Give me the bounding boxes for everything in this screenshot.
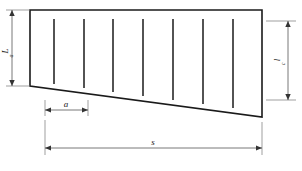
right-height-label-subscript: c xyxy=(280,62,286,65)
right-height-label: l xyxy=(272,58,282,61)
spacing-dimension: a xyxy=(45,99,88,116)
diagram-canvas: L a l c a s xyxy=(0,0,302,171)
right-height-dimension: l c xyxy=(266,21,296,100)
spacing-label: a xyxy=(64,99,69,109)
right-dim-arrow-down xyxy=(285,94,290,100)
technical-diagram-figure: L a l c a s xyxy=(0,0,302,171)
span-arrow-left xyxy=(45,146,51,151)
span-dimension: s xyxy=(45,120,262,155)
left-dim-arrow-down xyxy=(9,80,14,86)
left-height-label: L xyxy=(0,48,10,54)
left-height-label-subscript: a xyxy=(8,55,14,58)
internal-tick-lines xyxy=(54,19,233,108)
left-height-dimension: L a xyxy=(0,10,30,86)
spacing-arrow-right xyxy=(82,108,88,113)
span-label: s xyxy=(151,137,155,147)
spacing-arrow-left xyxy=(45,108,51,113)
span-arrow-right xyxy=(256,146,262,151)
left-dim-arrow-up xyxy=(9,10,14,16)
right-dim-arrow-up xyxy=(285,21,290,27)
